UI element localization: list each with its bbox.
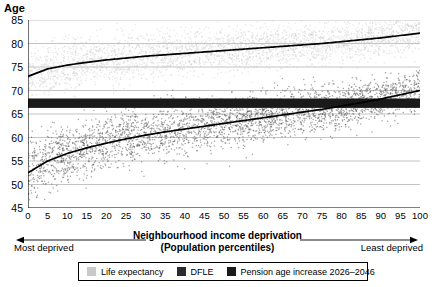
x-tick-50: 50 [214,211,234,221]
y-tick-85: 85 [0,15,23,25]
y-tick-55: 55 [0,156,23,166]
legend-label-pension-age: Pension age increase 2026–2046 [241,267,375,277]
chart-legend: Life expectancy DFLE Pension age increas… [78,262,368,281]
chart-canvas [28,20,420,208]
x-tick-80: 80 [332,211,352,221]
legend-label-dfle: DFLE [191,267,214,277]
legend-swatch-life-expectancy [87,267,96,276]
plot-area [28,20,420,208]
chart-root: Age 455055606570758085 05101520253035404… [0,0,435,287]
legend-item-life-expectancy: Life expectancy [87,267,164,277]
y-axis-title: Age [4,2,25,14]
x-tick-25: 25 [116,211,136,221]
y-tick-65: 65 [0,109,23,119]
legend-swatch-pension-age [227,267,236,276]
y-tick-80: 80 [0,39,23,49]
x-axis-title-line1: Neighbourhood income deprivation [133,230,302,241]
x-tick-65: 65 [273,211,293,221]
x-tick-10: 10 [57,211,77,221]
x-tick-100: 100 [410,211,430,221]
x-tick-55: 55 [234,211,254,221]
least-deprived-label: Least deprived [361,242,423,253]
legend-item-dfle: DFLE [177,267,214,277]
legend-swatch-dfle [177,267,186,276]
most-deprived-label: Most deprived [14,242,74,253]
y-tick-70: 70 [0,86,23,96]
x-tick-35: 35 [155,211,175,221]
y-tick-50: 50 [0,180,23,190]
x-tick-90: 90 [371,211,391,221]
y-tick-60: 60 [0,133,23,143]
x-tick-75: 75 [312,211,332,221]
legend-item-pension-age: Pension age increase 2026–2046 [227,267,375,277]
x-tick-40: 40 [175,211,195,221]
x-tick-30: 30 [136,211,156,221]
x-tick-95: 95 [390,211,410,221]
x-tick-5: 5 [38,211,58,221]
legend-label-life-expectancy: Life expectancy [101,267,164,277]
x-tick-70: 70 [292,211,312,221]
x-tick-0: 0 [18,211,38,221]
x-tick-45: 45 [194,211,214,221]
x-tick-20: 20 [96,211,116,221]
x-tick-60: 60 [253,211,273,221]
x-tick-85: 85 [351,211,371,221]
x-tick-15: 15 [77,211,97,221]
y-tick-75: 75 [0,62,23,72]
